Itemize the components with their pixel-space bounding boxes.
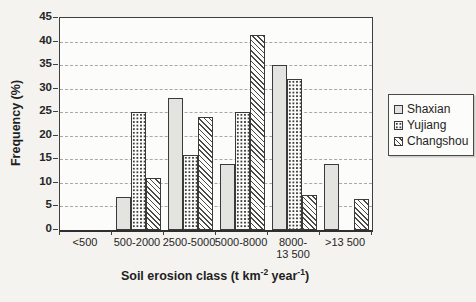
y-tick-mark-25: [53, 111, 58, 112]
x-tick-mark-3: [215, 231, 216, 235]
y-tick-label-10: 10: [0, 175, 52, 187]
x-tick-mark-5: [319, 231, 320, 235]
bar-shaxian-5: [324, 164, 339, 230]
y-tick-mark-15: [53, 158, 58, 159]
gridline-15: [60, 159, 372, 160]
y-tick-label-35: 35: [0, 57, 52, 69]
bar-changshou-1: [146, 178, 161, 230]
x-tick-label-2: 2500-5000: [159, 236, 219, 248]
y-tick-label-20: 20: [0, 128, 52, 140]
y-tick-mark-0: [53, 229, 58, 230]
legend-swatch-diagonal-hatch-icon: [394, 137, 403, 146]
y-tick-label-5: 5: [0, 198, 52, 210]
bar-shaxian-4: [272, 65, 287, 230]
y-tick-label-30: 30: [0, 81, 52, 93]
y-tick-mark-45: [53, 17, 58, 18]
y-tick-mark-40: [53, 41, 58, 42]
legend-entry-changshou: Changshou: [394, 134, 469, 148]
y-tick-mark-30: [53, 88, 58, 89]
x-axis-title-text: Soil erosion class (t km: [121, 269, 261, 283]
legend-swatch-solid-gray-icon: [394, 105, 403, 114]
x-tick-mark-1: [111, 231, 112, 235]
x-tick-label-5: >13 500: [315, 236, 375, 248]
gridline-30: [60, 89, 372, 90]
x-tick-mark-4: [267, 231, 268, 235]
x-tick-mark-0: [59, 231, 60, 235]
legend-label-shaxian: Shaxian: [407, 102, 450, 116]
y-tick-mark-10: [53, 182, 58, 183]
legend-entry-yujiang: Yujiang: [394, 118, 469, 132]
x-axis-title-text-mid: year: [268, 269, 297, 283]
x-tick-label-0: <500: [55, 236, 115, 248]
y-tick-mark-35: [53, 64, 58, 65]
soil-erosion-frequency-chart: Frequency (%) Soil erosion class (t km-2…: [0, 0, 476, 302]
y-tick-label-0: 0: [0, 222, 52, 234]
y-tick-mark-20: [53, 135, 58, 136]
x-tick-mark-2: [163, 231, 164, 235]
gridline-35: [60, 65, 372, 66]
gridline-25: [60, 112, 372, 113]
y-tick-label-25: 25: [0, 104, 52, 116]
bar-changshou-2: [198, 117, 213, 230]
gridline-20: [60, 136, 372, 137]
bar-changshou-3: [250, 35, 265, 231]
x-tick-label-4: 8000- 13 500: [263, 236, 323, 260]
gridline-40: [60, 42, 372, 43]
x-axis-title-sup-km: -2: [261, 267, 269, 277]
bar-changshou-5: [354, 199, 369, 230]
legend-entry-shaxian: Shaxian: [394, 102, 469, 116]
legend-swatch-dots-icon: [394, 121, 403, 130]
y-tick-label-40: 40: [0, 34, 52, 46]
x-tick-label-1: 500-2000: [107, 236, 167, 248]
y-tick-mark-5: [53, 205, 58, 206]
bar-yujiang-1: [131, 112, 146, 230]
bar-yujiang-2: [183, 155, 198, 230]
x-tick-label-3: 5000-8000: [211, 236, 271, 248]
x-axis-title-text-end: ): [305, 269, 309, 283]
legend-box: ShaxianYujiangChangshou: [388, 94, 474, 156]
bar-yujiang-4: [287, 79, 302, 230]
x-axis-title-sup-year: -1: [297, 267, 305, 277]
bar-shaxian-2: [168, 98, 183, 230]
y-tick-label-15: 15: [0, 151, 52, 163]
legend-label-changshou: Changshou: [407, 134, 468, 148]
bar-changshou-4: [302, 195, 317, 230]
bar-yujiang-3: [235, 112, 250, 230]
bar-shaxian-3: [220, 164, 235, 230]
y-tick-label-45: 45: [0, 10, 52, 22]
bar-shaxian-1: [116, 197, 131, 230]
x-axis-title: Soil erosion class (t km-2 year-1): [59, 267, 371, 283]
legend-label-yujiang: Yujiang: [407, 118, 446, 132]
x-tick-mark-6: [371, 231, 372, 235]
plot-area: [59, 17, 373, 232]
